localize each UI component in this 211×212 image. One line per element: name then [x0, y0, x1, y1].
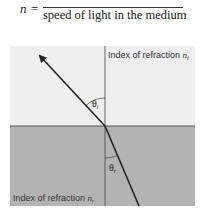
top-medium-label: Index of refraction ni — [108, 50, 189, 61]
bottom-medium-label: Index of refraction nr — [13, 193, 95, 204]
refraction-diagram: θi θr Index of refraction ni Index of re… — [0, 0, 211, 212]
